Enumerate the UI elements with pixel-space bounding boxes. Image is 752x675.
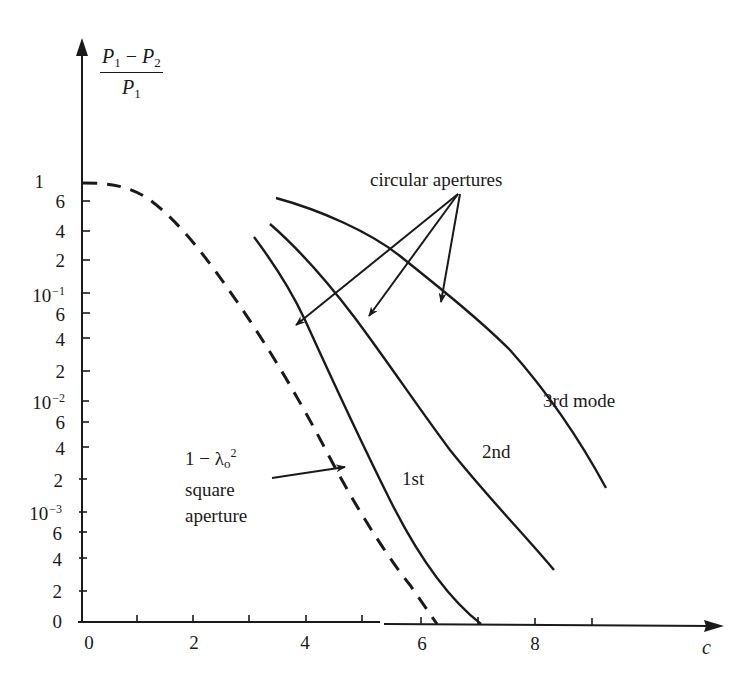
series-square-aperture-dashed <box>83 183 437 624</box>
series-3rd-mode <box>276 198 606 488</box>
annotation-square-line3: aperture <box>185 503 247 529</box>
y-tick-label: 0 <box>22 612 62 631</box>
y-tick-label: 1 <box>0 172 44 191</box>
series-2nd-mode <box>270 224 554 570</box>
y-tick-label: 2 <box>25 251 65 270</box>
y-axis <box>76 38 90 622</box>
y-tick-label: 4 <box>25 330 65 349</box>
y-tick-label: 10−1 <box>25 285 65 305</box>
y-axis-label: P1 − P2 P1 <box>100 46 163 100</box>
annotation-square-aperture: 1 − λo2 square aperture <box>185 440 247 529</box>
y-tick-label: 4 <box>22 550 62 569</box>
x-tick-label: 6 <box>412 634 432 653</box>
y-tick-label: 6 <box>22 524 62 543</box>
y-tick-label: 6 <box>25 413 65 432</box>
square-aperture-arrow <box>272 467 345 478</box>
y-tick-label: 6 <box>25 192 65 211</box>
y-axis-arrow-icon <box>76 38 88 56</box>
x-tick-label: 4 <box>295 633 315 652</box>
y-axis-label-denominator: P1 <box>100 73 163 100</box>
label-3rd-mode: 3rd mode <box>543 391 615 410</box>
x-axis-ticks <box>137 615 592 625</box>
x-axis-arrow-icon <box>704 620 724 632</box>
label-1st-mode: 1st <box>402 469 424 488</box>
y-tick-label: 2 <box>23 471 63 490</box>
x-tick-label: 8 <box>525 634 545 653</box>
label-2nd-mode: 2nd <box>482 442 511 461</box>
y-tick-label: 4 <box>25 439 65 458</box>
x-tick-label: 2 <box>184 633 204 652</box>
annotation-square-line2: square <box>185 477 247 503</box>
x-axis-label: c <box>702 637 711 657</box>
chart-canvas <box>0 0 752 675</box>
y-axis-label-numerator: P1 − P2 <box>100 46 163 73</box>
y-tick-label: 6 <box>25 305 65 324</box>
annotation-circular-apertures: circular apertures <box>370 170 502 189</box>
x-axis <box>78 615 724 632</box>
y-tick-label: 2 <box>25 362 65 381</box>
x-tick-label: 0 <box>79 633 99 652</box>
annotation-square-line1: 1 − λo2 <box>185 440 247 477</box>
y-tick-label: 2 <box>22 582 62 601</box>
y-tick-label: 4 <box>25 222 65 241</box>
y-tick-label: 10−3 <box>22 503 62 523</box>
y-tick-label: 10−2 <box>25 392 65 412</box>
y-axis-ticks <box>79 201 90 591</box>
